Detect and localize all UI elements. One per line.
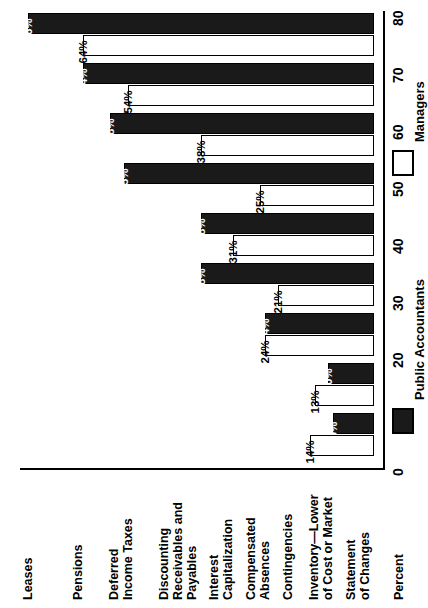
category-label-line: Deferred <box>108 518 122 600</box>
category-label-deferred-income-taxes: Deferred Income Taxes <box>108 518 136 600</box>
bar-statement-of-changes-managers[interactable]: 14% <box>310 435 374 456</box>
bar-value-label: 54% <box>122 90 134 113</box>
legend-label-managers: Managers <box>412 81 427 142</box>
axis-tick-50: 50 <box>390 181 406 197</box>
bar-compensated-absences-public-accountants[interactable]: 38% <box>201 263 374 284</box>
bar-deferred-income-taxes-public-accountants[interactable]: 58% <box>110 113 374 134</box>
bar-leases-managers[interactable]: 64% <box>83 35 374 56</box>
category-label-inventory-lower-of-cost-or-market: Inventory—Lower of Cost or Market <box>308 494 336 600</box>
bar-group-contingencies: 24% 24% <box>10 313 374 357</box>
bar-chart-figure: 76% 64% 64% 54% 58% 38% <box>0 0 428 608</box>
plot-area: 76% 64% 64% 54% 58% 38% <box>10 8 374 470</box>
bar-value-label: 55% <box>118 168 130 191</box>
axis-tick-0: 0 <box>390 468 406 476</box>
bar-deferred-income-taxes-managers[interactable]: 38% <box>201 135 374 156</box>
category-label-interest-capitalization: Interest Capitalization <box>208 519 236 600</box>
category-label-line: Income Taxes <box>122 518 136 600</box>
axis-tick-60: 60 <box>390 124 406 140</box>
bar-value-label: 38% <box>195 268 207 291</box>
bar-discounting-public-accountants[interactable]: 55% <box>124 163 374 184</box>
axis-tick-80: 80 <box>390 10 406 26</box>
legend-swatch-managers <box>392 150 414 176</box>
axis-tick-70: 70 <box>390 67 406 83</box>
bar-compensated-absences-managers[interactable]: 21% <box>278 285 374 306</box>
bar-group-inventory-lower-of-cost-or-market: 10% 13% <box>10 363 374 407</box>
legend-swatch-public-accountants <box>392 408 414 434</box>
bar-value-label: 25% <box>254 190 266 213</box>
category-label-line: Inventory—Lower <box>308 494 322 600</box>
bar-value-label: 76% <box>22 18 34 41</box>
category-label-line: Capitalization <box>222 519 236 600</box>
category-label-leases: Leases <box>22 558 36 600</box>
bar-statement-of-changes-public-accountants[interactable]: 9% <box>333 413 374 434</box>
axis-tick-40: 40 <box>390 238 406 254</box>
category-axis-baseline <box>20 468 384 470</box>
category-label-line: Receivables and <box>172 502 186 600</box>
category-label-line: Pensions <box>72 544 86 600</box>
category-label-line: Interest <box>208 519 222 600</box>
axis-tick-20: 20 <box>390 352 406 368</box>
bar-value-label: 31% <box>227 240 239 263</box>
category-label-line: Leases <box>22 558 36 600</box>
bar-value-label: 64% <box>77 68 89 91</box>
bar-group-deferred-income-taxes: 58% 38% <box>10 113 374 157</box>
bar-leases-public-accountants[interactable]: 76% <box>28 13 374 34</box>
axis-title-percent: Percent <box>392 554 406 600</box>
category-label-line: of Cost or Market <box>322 494 336 600</box>
category-label-discounting-receivables-and-payables: Discounting Receivables and Payables <box>158 502 199 600</box>
category-label-line: of Changes <box>359 532 373 600</box>
bar-group-compensated-absences: 38% 21% <box>10 263 374 307</box>
category-label-line: Compensated <box>245 517 259 600</box>
category-label-compensated-absences: Compensated Absences <box>245 517 273 600</box>
bar-value-label: 38% <box>195 218 207 241</box>
bar-discounting-managers[interactable]: 25% <box>260 185 374 206</box>
bar-value-label: 38% <box>195 140 207 163</box>
category-label-line: Absences <box>259 517 273 600</box>
bar-group-pensions: 64% 54% <box>10 63 374 107</box>
bar-pensions-public-accountants[interactable]: 64% <box>83 63 374 84</box>
bar-inventory-public-accountants[interactable]: 10% <box>328 363 374 384</box>
bar-group-interest-capitalization: 38% 31% <box>10 213 374 257</box>
bar-group-discounting-receivables-and-payables: 55% 25% <box>10 163 374 207</box>
category-label-line: Payables <box>186 502 200 600</box>
category-label-line: Statement <box>345 532 359 600</box>
category-label-line: Contingencies <box>282 514 296 600</box>
category-label-statement-of-changes: Statement of Changes <box>345 532 373 600</box>
bar-inventory-managers[interactable]: 13% <box>315 385 374 406</box>
bar-group-statement-of-changes: 9% 14% <box>10 413 374 457</box>
bar-group-leases: 76% 64% <box>10 13 374 57</box>
category-label-contingencies: Contingencies <box>282 514 296 600</box>
bar-contingencies-public-accountants[interactable]: 24% <box>265 313 374 334</box>
bar-value-label: 13% <box>309 390 321 413</box>
bar-value-label: 14% <box>304 440 316 463</box>
value-axis-spine <box>383 11 385 470</box>
bar-contingencies-managers[interactable]: 24% <box>265 335 374 356</box>
bar-interest-capitalization-public-accountants[interactable]: 38% <box>201 213 374 234</box>
bar-pensions-managers[interactable]: 54% <box>128 85 374 106</box>
bar-value-label: 58% <box>104 118 116 141</box>
bar-interest-capitalization-managers[interactable]: 31% <box>233 235 374 256</box>
category-label-pensions: Pensions <box>72 544 86 600</box>
bar-value-label: 24% <box>259 340 271 363</box>
axis-tick-30: 30 <box>390 295 406 311</box>
category-label-line: Discounting <box>158 502 172 600</box>
bar-value-label: 64% <box>77 40 89 63</box>
legend-label-public-accountants: Public Accountants <box>412 279 427 400</box>
bar-value-label: 21% <box>272 290 284 313</box>
